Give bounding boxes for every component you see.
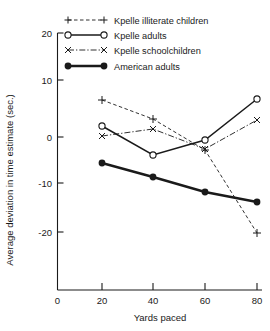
- y-tick-label-10: 10: [41, 75, 52, 86]
- x-tick-label-20: 20: [97, 295, 108, 306]
- series-kpelle-illiterate-children: [98, 96, 261, 237]
- legend-item-kpelle-adults: Kpelle adults: [65, 31, 167, 41]
- y-tick-label-neg10: -10: [38, 178, 52, 189]
- legend-label-american-adults: American adults: [114, 62, 180, 72]
- x-tick-label-40: 40: [148, 295, 159, 306]
- chart-svg: 20 10 0 -10 -20 0 20 40 60 80 Yards pace…: [0, 0, 270, 331]
- x-tick-label-80: 80: [252, 295, 263, 306]
- series-line-kpelle-illiterate-children: [102, 100, 257, 233]
- legend-label-kpelle-adults: Kpelle adults: [114, 31, 167, 41]
- y-tick-label-20: 20: [41, 28, 52, 39]
- y-tick-labels: 20 10 0 -10 -20: [38, 28, 52, 238]
- chart-legend: Kpelle illiterate children Kpelle adults…: [65, 16, 209, 72]
- y-tick-label-neg20: -20: [38, 227, 52, 238]
- series-kpelle-adults: [99, 96, 260, 158]
- axis-group: [58, 33, 263, 290]
- y-tick-label-0: 0: [47, 132, 52, 143]
- legend-item-kpelle-illiterate-children: Kpelle illiterate children: [65, 16, 209, 26]
- x-tick-label-0: 0: [55, 295, 60, 306]
- x-tick-label-60: 60: [200, 295, 211, 306]
- y-axis-title: Average deviation in time estimate (sec.…: [4, 94, 15, 265]
- legend-marker-open-circle-left: [65, 32, 71, 38]
- chart-figure: 20 10 0 -10 -20 0 20 40 60 80 Yards pace…: [0, 0, 270, 331]
- legend-label-kpelle-illiterate-children: Kpelle illiterate children: [114, 16, 208, 26]
- x-tick-labels: 0 20 40 60 80: [55, 295, 262, 306]
- legend-item-american-adults: American adults: [65, 62, 181, 72]
- legend-item-kpelle-schoolchildren: Kpelle schoolchildren: [65, 46, 201, 56]
- series-markers-kpelle-illiterate-children: [98, 96, 261, 237]
- x-axis-title: Yards paced: [134, 312, 187, 323]
- legend-marker-plus-dashed: [65, 17, 108, 24]
- series-line-kpelle-adults: [102, 99, 257, 155]
- series-markers-kpelle-adults: [99, 96, 260, 158]
- legend-label-kpelle-schoolchildren: Kpelle schoolchildren: [114, 46, 201, 56]
- series-american-adults: [99, 160, 261, 206]
- legend-marker-filled-circle-left: [65, 63, 72, 70]
- legend-marker-filled-circle-right: [101, 63, 108, 70]
- legend-marker-open-circle-right: [101, 32, 107, 38]
